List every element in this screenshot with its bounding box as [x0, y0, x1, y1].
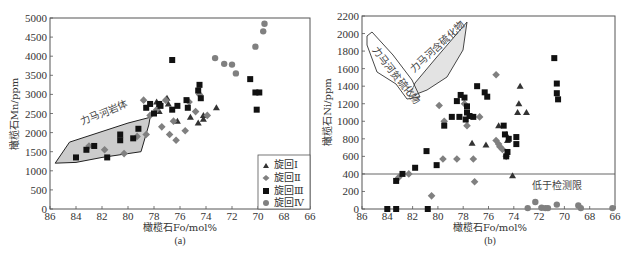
data-point-square — [424, 148, 430, 154]
data-point-diamond — [492, 71, 500, 79]
x-tick-label: 72 — [534, 210, 545, 222]
data-point-circle — [261, 21, 267, 27]
x-tick-label: 80 — [432, 210, 444, 222]
data-point-diamond — [470, 155, 478, 163]
x-tick-label: 82 — [407, 210, 418, 222]
data-point-diamond — [463, 122, 471, 130]
y-tick-label: 500 — [31, 184, 48, 196]
data-point-triangle — [482, 141, 489, 147]
data-point-square — [454, 98, 460, 104]
data-point-diamond — [476, 113, 484, 121]
data-point-square — [169, 107, 175, 113]
panel-a-caption: (a) — [174, 235, 185, 247]
panel-a: 8684828078767472706866 05001000150020002… — [8, 12, 316, 247]
panel-a-x-axis-title: 橄榄石Fo/mol% — [143, 221, 217, 233]
data-point-square — [554, 81, 560, 87]
data-point-square — [117, 137, 123, 143]
data-point-diamond — [158, 123, 166, 131]
data-point-circle — [212, 55, 218, 61]
data-point-square — [91, 143, 97, 149]
y-tick-label: 2500 — [25, 108, 48, 120]
data-point-square — [185, 105, 191, 111]
figure: 8684828078767472706866 05001000150020002… — [0, 0, 630, 256]
y-tick-label: 1000 — [25, 165, 48, 177]
square-marker-icon — [263, 188, 269, 194]
data-point-triangle — [514, 109, 521, 115]
data-point-diamond — [405, 170, 413, 178]
x-tick-label: 66 — [610, 210, 622, 222]
y-tick-label: 600 — [343, 150, 360, 162]
data-point-diamond — [428, 192, 436, 200]
y-tick-label: 1800 — [337, 45, 360, 57]
legend-label-cycle-3: 旋回Ⅲ — [274, 184, 304, 196]
data-point-circle — [525, 205, 531, 211]
y-tick-label: 5000 — [25, 12, 48, 24]
panel-b-y-axis-title: 橄榄石Ni/ppm — [321, 78, 333, 146]
data-point-square — [169, 57, 175, 63]
data-point-square — [506, 136, 512, 142]
data-point-circle — [609, 205, 615, 211]
data-point-square — [254, 107, 260, 113]
data-point-square — [554, 90, 560, 96]
panel-b-field-label-sulfide-poor: 力马河贫硫化物 — [370, 44, 423, 107]
x-tick-label: 72 — [227, 210, 238, 222]
panel-b-caption: (b) — [484, 235, 496, 247]
legend-label-cycle-2: 旋回Ⅱ — [274, 171, 301, 183]
y-tick-label: 0 — [42, 203, 48, 215]
y-tick-label: 1500 — [25, 146, 48, 158]
data-point-square — [195, 88, 201, 94]
data-point-diamond — [471, 178, 479, 186]
x-tick-label: 84 — [71, 210, 83, 222]
data-point-circle — [578, 205, 584, 211]
data-point-diamond — [170, 117, 178, 125]
y-tick-label: 2000 — [25, 127, 48, 139]
x-tick-label: 66 — [305, 210, 317, 222]
y-tick-label: 4500 — [25, 31, 48, 43]
data-point-square — [425, 206, 431, 212]
data-point-square — [184, 97, 190, 103]
data-point-circle — [545, 205, 551, 211]
data-point-triangle — [515, 100, 522, 106]
data-point-triangle — [187, 114, 194, 120]
x-tick-label: 76 — [175, 210, 187, 222]
data-point-square — [104, 154, 110, 160]
data-point-square — [456, 114, 462, 120]
data-point-diamond — [181, 127, 189, 135]
data-point-circle — [233, 70, 239, 76]
data-point-square — [147, 101, 153, 107]
x-tick-label: 76 — [483, 210, 495, 222]
data-point-diamond — [439, 155, 447, 163]
data-point-square — [399, 171, 405, 177]
x-tick-label: 68 — [584, 210, 596, 222]
data-point-square — [197, 82, 203, 88]
data-point-diamond — [140, 96, 148, 104]
data-point-square — [73, 154, 79, 160]
panel-a-y-ticks: 0500100015002000250030003500400045005000 — [25, 12, 53, 215]
data-point-triangle — [517, 83, 524, 89]
data-point-circle — [532, 199, 538, 205]
x-tick-label: 74 — [201, 210, 213, 222]
x-tick-label: 70 — [253, 210, 265, 222]
y-tick-label: 800 — [343, 133, 360, 145]
y-tick-label: 1000 — [337, 115, 360, 127]
data-point-circle — [229, 61, 235, 67]
panel-b-detection-limit-label: 低于检测限 — [532, 179, 582, 191]
data-point-square — [83, 147, 89, 153]
data-point-square — [461, 95, 467, 101]
data-point-triangle — [469, 140, 476, 146]
data-point-square — [501, 123, 507, 129]
data-point-diamond — [453, 155, 461, 163]
data-point-square — [247, 76, 253, 82]
x-tick-label: 78 — [458, 210, 470, 222]
y-tick-label: 1200 — [337, 98, 360, 110]
data-point-square — [198, 95, 204, 101]
panel-a-legend: 旋回Ⅰ 旋回Ⅱ 旋回Ⅲ 旋回Ⅳ — [258, 155, 310, 209]
data-point-square — [555, 96, 561, 102]
data-point-square — [434, 162, 440, 168]
y-tick-label: 0 — [354, 203, 360, 215]
data-point-square — [393, 178, 399, 184]
x-tick-label: 82 — [97, 210, 108, 222]
legend-label-cycle-1: 旋回Ⅰ — [274, 158, 298, 170]
data-point-square — [174, 103, 180, 109]
panel-a-field-label: 力马河岩体 — [78, 97, 129, 127]
